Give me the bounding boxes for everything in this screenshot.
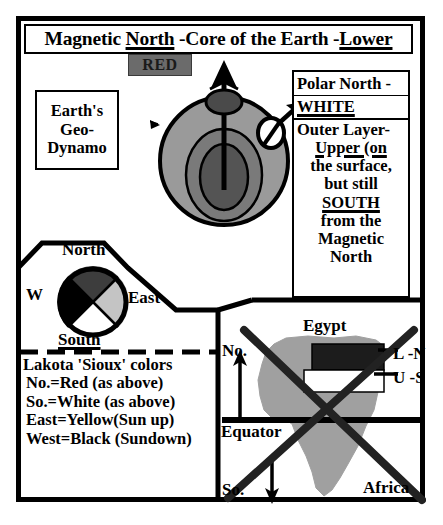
outer-layer-line-5: SOUTH <box>297 194 405 212</box>
compass-label-south: South <box>58 330 101 350</box>
geo-dynamo-pointer-arrow <box>150 110 160 129</box>
lakota-item-west: West=Black (Sundown) <box>22 430 227 448</box>
earth-north-pole-cap <box>206 90 242 114</box>
outer-layer-line-4: but still <box>297 175 405 193</box>
red-label-text: RED <box>142 56 177 74</box>
lakota-colors-list: Lakota 'Sioux' colors No.=Red (as above)… <box>22 356 227 448</box>
earth-geo-dynamo-label: Earth's Geo- Dynamo <box>35 90 119 170</box>
outer-layer-line-3: the surface, <box>297 157 405 175</box>
red-label-chip: RED <box>128 54 192 76</box>
compass-label-north: North <box>62 240 105 260</box>
geo-dynamo-line-1: Earth's <box>51 102 103 120</box>
outer-layer-line-6: from the <box>297 212 405 230</box>
lakota-item-east: East=Yellow(Sun up) <box>22 411 227 429</box>
africa-label-south: So. <box>222 480 244 500</box>
africa-label-upper-south: U -S <box>393 368 425 388</box>
africa-label-lower-north: L -N <box>393 344 426 364</box>
geo-dynamo-line-3: Dynamo <box>47 139 107 157</box>
title-part-1: Magnetic <box>45 28 126 49</box>
lakota-title: Lakota 'Sioux' colors <box>22 356 227 374</box>
compass-label-east: East <box>128 288 160 308</box>
lakota-item-south: So.=White (as above) <box>22 393 227 411</box>
title-part-3: -Core of the Earth - <box>174 28 339 49</box>
polar-north-row: Polar North - <box>294 72 408 96</box>
outer-layer-line-7: Magnetic <box>297 230 405 248</box>
polar-north-text: Polar North - <box>297 74 391 94</box>
geo-dynamo-line-2: Geo- <box>60 121 94 139</box>
outer-layer-line-2: Upper (on <box>297 139 405 157</box>
title-part-2-north: North <box>126 28 175 49</box>
africa-label-north: No. <box>222 341 247 361</box>
africa-label-continent: Africa <box>363 478 409 498</box>
africa-label-egypt: Egypt <box>303 316 346 336</box>
compass-label-west: W <box>26 285 43 305</box>
outer-layer-line-8: North <box>297 248 405 266</box>
page-title-text: Magnetic North -Core of the Earth -Lower <box>45 28 393 50</box>
earth-cross-section-diagram <box>150 58 310 253</box>
page-title: Magnetic North -Core of the Earth -Lower <box>24 24 413 54</box>
outer-layer-note: Outer Layer- Upper (on the surface, but … <box>294 120 408 266</box>
outer-layer-line-1: Outer Layer- <box>297 121 405 139</box>
diagram-canvas: Magnetic North -Core of the Earth -Lower… <box>0 0 443 525</box>
title-part-4-lower: Lower <box>339 28 392 49</box>
white-text: WHITE <box>297 97 355 117</box>
white-row: WHITE <box>294 96 408 120</box>
lakota-item-north: No.=Red (as above) <box>22 374 227 392</box>
africa-label-equator: Equator <box>221 422 281 442</box>
polar-north-panel: Polar North - WHITE Outer Layer- Upper (… <box>292 70 410 298</box>
